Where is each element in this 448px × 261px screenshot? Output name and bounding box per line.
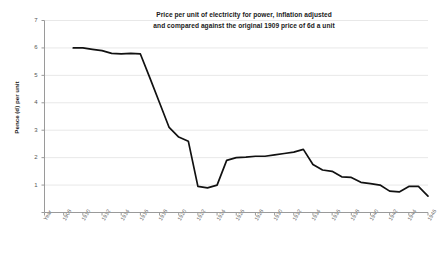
plot-area (0, 0, 448, 261)
gridlines (45, 21, 429, 186)
data-series-line (73, 48, 428, 196)
chart-container: Price per unit of electricity for power,… (0, 0, 448, 261)
